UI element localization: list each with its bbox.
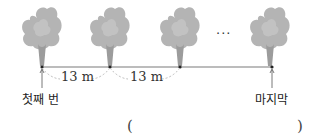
tree-icon-second — [90, 7, 130, 66]
spacing-label-1: 13 m — [61, 69, 94, 84]
answer-blank[interactable] — [138, 118, 295, 136]
spacing-bracket-left — [42, 68, 60, 79]
spacing-bracket-left — [92, 68, 110, 79]
answer-paren-open: ( — [127, 117, 133, 135]
spacing-bracket-right — [162, 68, 180, 79]
tree-icon-last — [250, 7, 290, 66]
answer-paren-close: ) — [297, 117, 303, 135]
last-tree-label: 마지막 — [255, 90, 288, 107]
spacing-bracket-right — [110, 68, 128, 79]
tree-icon-third — [160, 7, 200, 66]
first-tree-label: 첫째 번 — [22, 90, 59, 107]
spacing-label-2: 13 m — [130, 69, 163, 84]
ellipsis: ··· — [216, 26, 231, 41]
tree-icon-first — [22, 7, 62, 66]
